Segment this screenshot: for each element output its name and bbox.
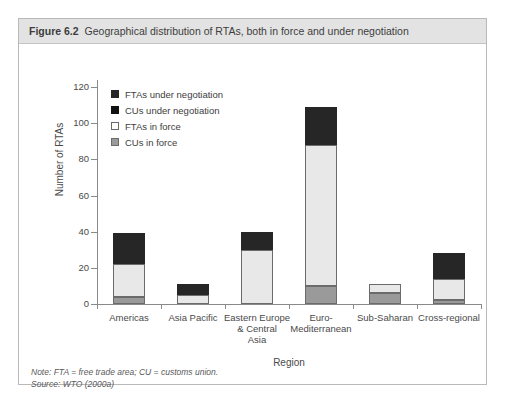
bar-segment	[369, 284, 401, 293]
figure-title: Geographical distribution of RTAs, both …	[85, 25, 409, 37]
x-tick	[161, 304, 162, 309]
legend-item-label: CUs in force	[125, 137, 177, 148]
y-tick-label: 0	[47, 298, 89, 309]
bar-segment	[433, 300, 465, 304]
x-tick	[481, 304, 482, 309]
legend-item: FTAs under negotiation	[111, 86, 223, 102]
legend-swatch-icon	[111, 106, 119, 114]
bar-segment	[305, 107, 337, 145]
legend-item-label: FTAs under negotiation	[125, 89, 223, 100]
figure-header: Figure 6.2 Geographical distribution of …	[19, 19, 486, 44]
y-tick-label: 40	[47, 226, 89, 237]
bar-segment	[241, 232, 273, 250]
x-category-label-line: Mediterranean	[283, 323, 359, 334]
bar-segment	[113, 297, 145, 304]
x-tick	[417, 304, 418, 309]
x-tick	[353, 304, 354, 309]
bar-segment	[177, 295, 209, 304]
bar-segment	[241, 250, 273, 304]
x-category-label-line: Asia	[219, 334, 295, 345]
figure-footnotes: Note: FTA = free trade area; CU = custom…	[31, 366, 218, 390]
plot-area: Number of RTAs 020406080100120 AmericasA…	[19, 44, 486, 384]
bar-segment	[433, 253, 465, 278]
legend-item-label: FTAs in force	[125, 121, 181, 132]
bar-segment	[177, 284, 209, 295]
y-tick-label: 80	[47, 153, 89, 164]
x-tick	[225, 304, 226, 309]
bar-segment	[369, 293, 401, 304]
y-tick-label: 120	[47, 81, 89, 92]
figure-note: Note: FTA = free trade area; CU = custom…	[31, 366, 218, 378]
figure-source: Source: WTO (2000a)	[31, 378, 218, 390]
figure-number: Figure 6.2	[29, 25, 79, 37]
bar-segment	[113, 264, 145, 297]
bar-segment	[305, 145, 337, 286]
legend-item: CUs in force	[111, 134, 223, 150]
x-category-label-line: Cross-regional	[411, 312, 487, 323]
chart-legend: FTAs under negotiationCUs under negotiat…	[111, 86, 223, 150]
y-tick-label: 100	[47, 117, 89, 128]
x-tick	[289, 304, 290, 309]
legend-item: FTAs in force	[111, 118, 223, 134]
figure-container: Figure 6.2 Geographical distribution of …	[18, 18, 487, 385]
x-category-label: Cross-regional	[411, 312, 487, 323]
legend-swatch-icon	[111, 122, 119, 130]
legend-swatch-icon	[111, 90, 119, 98]
y-tick-label: 60	[47, 190, 89, 201]
x-tick	[97, 304, 98, 309]
y-tick-label: 20	[47, 262, 89, 273]
legend-swatch-icon	[111, 138, 119, 146]
bar-segment	[113, 233, 145, 264]
legend-item: CUs under negotiation	[111, 102, 223, 118]
bar-segment	[433, 279, 465, 301]
bar-segment	[305, 286, 337, 304]
legend-item-label: CUs under negotiation	[125, 105, 220, 116]
